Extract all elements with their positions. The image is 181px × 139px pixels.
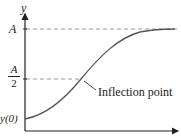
tick-label-a: A (9, 23, 16, 35)
inflection-label: Inflection point (98, 86, 172, 98)
inflection-leader (84, 81, 96, 90)
tick-label-y0: y(0) (0, 113, 18, 124)
logistic-curve (25, 29, 175, 119)
chart-canvas (0, 0, 181, 139)
tick-label-half: A 2 (8, 64, 20, 89)
half-denominator: 2 (8, 77, 20, 89)
y-axis-label: y (21, 2, 26, 14)
half-numerator: A (8, 64, 20, 77)
